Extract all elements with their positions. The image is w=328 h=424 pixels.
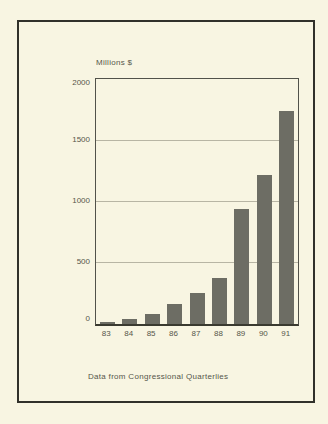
y-tick-label: 0 xyxy=(86,314,90,323)
bar xyxy=(257,175,272,324)
y-tick-label: 1000 xyxy=(72,196,90,205)
x-tick-label: 83 xyxy=(95,329,117,339)
bar xyxy=(167,304,182,324)
chart-y-axis-title: Millions $ xyxy=(96,58,132,67)
y-tick-label: 1500 xyxy=(72,135,90,144)
bar xyxy=(212,278,227,324)
y-tick-label: 500 xyxy=(77,257,90,266)
x-tick-label: 87 xyxy=(185,329,207,339)
bar xyxy=(234,209,249,324)
y-tick-label: 2000 xyxy=(72,78,90,87)
y-axis-labels: 0500100015002000 xyxy=(52,78,90,323)
x-tick-label: 85 xyxy=(140,329,162,339)
gridline xyxy=(96,140,298,141)
x-tick-label: 89 xyxy=(230,329,252,339)
x-tick-label: 84 xyxy=(117,329,139,339)
bar xyxy=(279,111,294,324)
bar xyxy=(190,293,205,324)
x-tick-label: 91 xyxy=(275,329,297,339)
figure-caption: Data from Congressional Quarterlies xyxy=(88,372,228,381)
bar xyxy=(100,322,115,324)
x-tick-label: 86 xyxy=(162,329,184,339)
bar xyxy=(145,314,160,324)
x-tick-label: 90 xyxy=(252,329,274,339)
plot-area xyxy=(95,78,299,326)
x-tick-label: 88 xyxy=(207,329,229,339)
scanned-figure-page: Millions $ 0500100015002000 838485868788… xyxy=(0,0,328,424)
x-axis-labels: 838485868788899091 xyxy=(95,329,297,339)
bar xyxy=(122,319,137,324)
